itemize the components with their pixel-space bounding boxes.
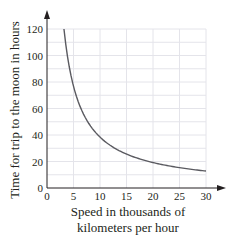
x-axis-title-line-2: kilometers per hour	[77, 220, 179, 235]
y-axis-arrow-icon	[44, 10, 50, 19]
x-tick-label: 0	[44, 190, 50, 202]
axes	[44, 10, 226, 191]
y-tick-labels: 020406080100120	[27, 23, 44, 194]
y-tick-label: 100	[27, 50, 44, 62]
y-tick-label: 120	[27, 23, 44, 35]
x-tick-label: 15	[121, 190, 133, 202]
grid-lines	[47, 29, 206, 188]
y-tick-label: 80	[32, 76, 44, 88]
x-axis-arrow-icon	[217, 185, 226, 191]
x-tick-labels: 051015202530	[44, 190, 212, 202]
data-curve	[64, 29, 206, 171]
x-axis-title-line-1: Speed in thousands of	[71, 204, 186, 219]
y-tick-label: 60	[32, 103, 44, 115]
x-tick-label: 20	[148, 190, 160, 202]
y-tick-label: 0	[38, 182, 44, 194]
chart: 051015202530 020406080100120 Time for tr…	[0, 0, 234, 238]
x-tick-label: 10	[95, 190, 107, 202]
y-tick-label: 20	[32, 156, 44, 168]
x-tick-label: 5	[71, 190, 77, 202]
x-tick-label: 25	[174, 190, 186, 202]
y-axis-title: Time for trip to the moon in hours	[7, 21, 22, 199]
x-tick-label: 30	[201, 190, 213, 202]
y-tick-label: 40	[32, 129, 44, 141]
